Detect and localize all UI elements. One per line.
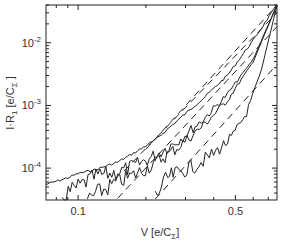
y-tick-label: 10-4 xyxy=(22,160,42,174)
y-tick-label: 10-3 xyxy=(22,97,42,111)
plot-area xyxy=(46,5,277,200)
chart: 0.10.510-210-310-4 V [e/CΣ] I·R1 [e/CΣ ] xyxy=(0,0,282,244)
series-measured-1 xyxy=(46,5,277,184)
y-tick-label: 10-2 xyxy=(22,35,42,49)
axis-ticks xyxy=(46,5,277,200)
plot-frame xyxy=(46,5,277,200)
series-measured-4 xyxy=(155,5,277,195)
x-axis-title: V [e/CΣ] xyxy=(141,226,180,241)
y-axis-title: I·R1 [e/CΣ ] xyxy=(4,76,19,129)
x-tick-label: 0.1 xyxy=(70,205,85,217)
x-tick-label: 0.5 xyxy=(228,205,243,217)
series-fit-4 xyxy=(155,65,277,200)
tick-labels: 0.10.510-210-310-4 xyxy=(22,35,243,217)
series-measured-2 xyxy=(62,5,277,200)
